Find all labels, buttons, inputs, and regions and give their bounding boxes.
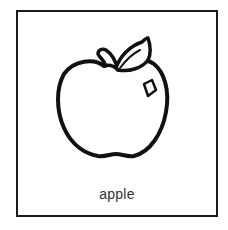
apple-icon [54, 30, 174, 162]
picture-card: apple [16, 10, 218, 217]
card-label: apple [18, 186, 216, 202]
